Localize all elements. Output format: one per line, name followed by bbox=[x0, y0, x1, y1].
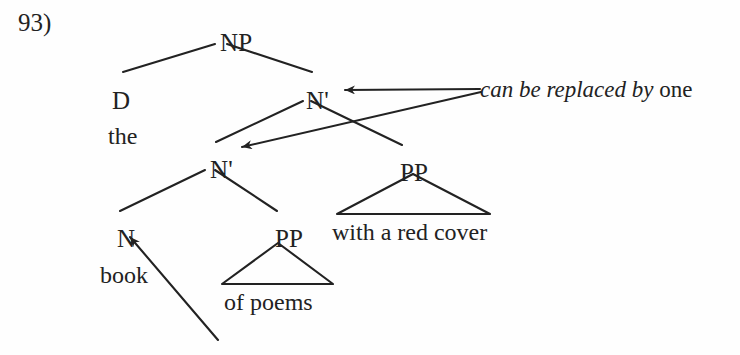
tree-node-n: N bbox=[117, 226, 135, 251]
arrow-to-nbar2 bbox=[242, 92, 481, 147]
tree-node-nbar-upper: N' bbox=[306, 88, 329, 113]
terminal-book: book bbox=[100, 263, 148, 287]
annotation-italic-text: can be replaced by bbox=[480, 77, 654, 102]
annotation-roman-text: one bbox=[659, 77, 692, 102]
branch-np-to-d bbox=[123, 44, 215, 72]
terminal-of-poems: of poems bbox=[224, 290, 313, 314]
example-number: 93) bbox=[18, 10, 51, 35]
syntax-tree-graphic bbox=[0, 0, 740, 355]
figure-canvas: 93) NP D N' N' PP N PP the book of poems… bbox=[0, 0, 740, 355]
tree-node-np: NP bbox=[220, 30, 252, 55]
annotation-caption: can be replaced by one bbox=[480, 78, 692, 101]
arrow-to-nbar1 bbox=[345, 89, 480, 90]
terminal-the: the bbox=[108, 124, 137, 148]
terminal-with-a-red-cover: with a red cover bbox=[332, 220, 487, 244]
tree-node-pp-left: PP bbox=[275, 226, 303, 251]
tree-node-d: D bbox=[112, 88, 130, 113]
branch-nbar2-to-n bbox=[120, 170, 205, 211]
arrow-to-n-book bbox=[130, 237, 218, 340]
tree-branches bbox=[120, 44, 402, 211]
tree-node-pp-right: PP bbox=[400, 160, 428, 185]
tree-node-nbar-lower: N' bbox=[210, 157, 233, 182]
